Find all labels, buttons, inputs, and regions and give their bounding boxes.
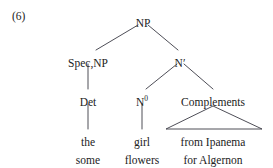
- node-n-zero-superscript: 0: [144, 94, 148, 103]
- leaf-for-algernon: for Algernon: [183, 155, 242, 167]
- node-complements: Complements: [181, 97, 245, 109]
- edge-nbar-to-nzero: [146, 64, 177, 89]
- syntax-tree-figure: (6) NP Spec,NP N′ Det N0 Complements the…: [0, 0, 273, 168]
- leaf-flowers: flowers: [125, 155, 160, 167]
- leaf-from-ipanema: from Ipanema: [181, 137, 246, 149]
- leaf-girl: girl: [134, 137, 150, 149]
- leaf-some: some: [76, 155, 100, 167]
- edge-nbar-to-complements: [184, 64, 213, 89]
- node-det: Det: [80, 97, 97, 109]
- edge-np-to-nbar: [148, 25, 178, 50]
- edge-np-to-spec: [96, 25, 138, 50]
- leaf-the: the: [81, 137, 95, 149]
- node-np: NP: [136, 18, 151, 30]
- node-n-zero: N0: [136, 97, 148, 109]
- node-spec-np: Spec,NP: [68, 58, 108, 70]
- complements-triangle-icon: [166, 106, 262, 129]
- node-n-bar: N′: [175, 58, 186, 70]
